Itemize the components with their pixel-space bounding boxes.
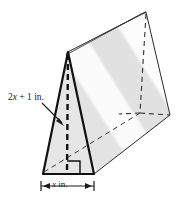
width-arrowhead-left	[43, 183, 50, 189]
width-dimension-label: x in.	[52, 180, 68, 189]
height-label-suffix: + 1 in.	[17, 92, 44, 102]
width-arrowhead-right	[85, 183, 92, 189]
width-label-suffix: in.	[56, 179, 68, 189]
height-dimension-label: 2x + 1 in.	[8, 93, 44, 103]
triangular-prism-figure: 2x + 1 in. x in.	[0, 0, 181, 200]
